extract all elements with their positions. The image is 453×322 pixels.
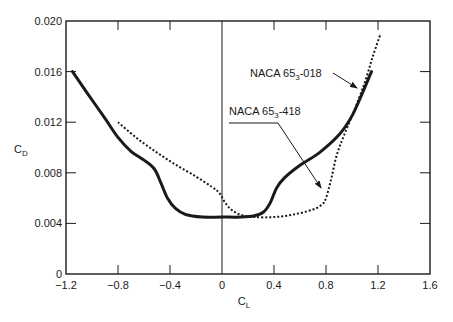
y-tick-label: 0.008	[34, 167, 62, 179]
y-tick-label: 0.004	[34, 217, 62, 229]
label-naca-65-3-418: NACA 653-418	[229, 105, 301, 120]
x-tick-label: 1.6	[422, 279, 437, 291]
y-axis-title: CD	[14, 143, 28, 158]
drag-polar-chart: −1.2−0.8−0.400.40.81.21.600.0040.0080.01…	[0, 0, 453, 322]
x-tick-label: 0.8	[318, 279, 333, 291]
plot-border	[66, 21, 430, 274]
axis-tick-labels: −1.2−0.8−0.400.40.81.21.600.0040.0080.01…	[34, 15, 437, 291]
arrow-naca-65-3-018	[333, 73, 357, 88]
arrow-naca-65-3-418	[229, 123, 321, 188]
y-tick-label: 0	[56, 268, 62, 280]
x-tick-label: −1.2	[55, 279, 77, 291]
x-axis-title: CL	[238, 295, 251, 310]
y-tick-label: 0.012	[34, 116, 62, 128]
y-tick-label: 0.016	[34, 66, 62, 78]
x-tick-label: 0.4	[266, 279, 281, 291]
data-series	[73, 34, 381, 218]
plot-frame	[66, 21, 430, 274]
x-tick-label: 1.2	[370, 279, 385, 291]
x-tick-label: −0.8	[107, 279, 129, 291]
label-naca-65-3-018: NACA 653-018	[250, 67, 322, 82]
series-naca-65-3-418	[118, 34, 381, 218]
y-tick-label: 0.020	[34, 15, 62, 27]
x-tick-label: −0.4	[159, 279, 181, 291]
axis-ticks	[66, 21, 430, 274]
x-tick-label: 0	[219, 279, 225, 291]
